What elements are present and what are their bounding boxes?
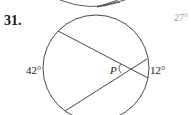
angle-arc-p bbox=[119, 64, 121, 73]
problem-number: 31. bbox=[4, 13, 22, 29]
left-arc-label: 42° bbox=[26, 64, 41, 76]
right-arc-label: 12° bbox=[150, 64, 165, 76]
geometry-figure bbox=[0, 0, 191, 115]
point-p-label: P bbox=[110, 64, 117, 76]
circle bbox=[43, 15, 149, 115]
chord-upper bbox=[58, 31, 148, 78]
chord-lower bbox=[65, 59, 147, 111]
margin-angle-label: 27° bbox=[174, 12, 188, 23]
